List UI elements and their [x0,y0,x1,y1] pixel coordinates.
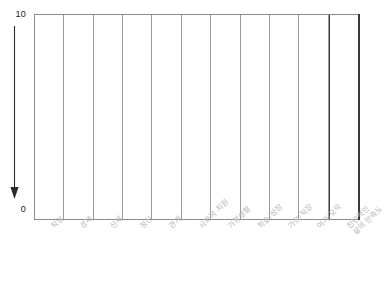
y-axis: 10 0 [0,0,34,225]
plot-column[interactable] [152,15,181,219]
plot-column[interactable] [94,15,123,219]
y-axis-tick-min: 0 [0,204,26,214]
plot-right-edge [358,14,360,220]
plot-area [34,14,360,220]
plot-column[interactable] [123,15,152,219]
plot-column[interactable] [270,15,299,219]
plot-column[interactable] [241,15,270,219]
plot-column-summary[interactable] [329,15,359,219]
plot-column[interactable] [211,15,240,219]
x-axis-labels: 직업 경제 신체 정신 관계 사회적 지원 가정생활 학습/성장 가정/직장 여… [34,220,360,285]
plot-column[interactable] [299,15,328,219]
plot-column[interactable] [64,15,93,219]
plot-column[interactable] [182,15,211,219]
y-axis-tick-max: 10 [0,9,26,19]
plot-column[interactable] [35,15,64,219]
arrow-down-icon [8,26,21,200]
